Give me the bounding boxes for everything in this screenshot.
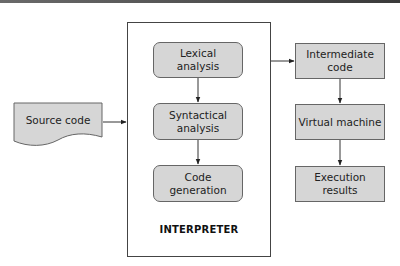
syntactical-analysis-label: Syntactical analysis — [169, 109, 227, 135]
execution-results-node: Execution results — [295, 166, 385, 202]
code-generation-label: Code generation — [169, 171, 226, 197]
interpreter-label: INTERPRETER — [127, 224, 271, 235]
intermediate-code-label: Intermediate code — [306, 48, 374, 74]
intermediate-code-node: Intermediate code — [295, 43, 385, 79]
code-generation-node: Code generation — [153, 165, 243, 202]
virtual-machine-label: Virtual machine — [299, 116, 382, 129]
source-code-node: Source code — [14, 103, 102, 137]
lexical-analysis-node: Lexical analysis — [153, 42, 243, 78]
syntactical-analysis-node: Syntactical analysis — [153, 103, 243, 140]
virtual-machine-node: Virtual machine — [295, 104, 385, 140]
execution-results-label: Execution results — [314, 171, 366, 197]
lexical-analysis-label: Lexical analysis — [177, 47, 220, 73]
source-code-label: Source code — [26, 114, 91, 127]
